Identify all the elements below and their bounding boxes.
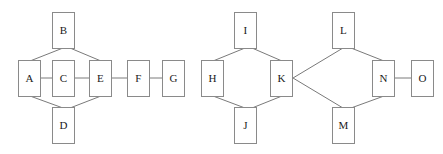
node-e[interactable]: E xyxy=(89,60,112,97)
node-n[interactable]: N xyxy=(372,60,395,97)
node-label-c: C xyxy=(60,73,68,84)
node-m[interactable]: M xyxy=(332,107,355,144)
edge-m-n xyxy=(351,96,384,108)
node-label-d: D xyxy=(59,120,67,131)
node-label-f: F xyxy=(135,73,141,84)
node-label-m: M xyxy=(339,120,349,131)
node-g[interactable]: G xyxy=(162,60,185,97)
node-f[interactable]: F xyxy=(127,60,150,97)
node-h[interactable]: H xyxy=(201,60,224,97)
edge-k-m xyxy=(293,78,343,108)
node-label-l: L xyxy=(340,25,347,36)
node-o[interactable]: O xyxy=(411,60,434,97)
node-i[interactable]: I xyxy=(234,12,257,49)
node-label-j: J xyxy=(243,120,247,131)
edge-k-l xyxy=(293,48,343,78)
node-label-o: O xyxy=(418,73,426,84)
node-l[interactable]: L xyxy=(332,12,355,49)
node-j[interactable]: J xyxy=(234,107,257,144)
node-label-k: K xyxy=(277,73,285,84)
node-d[interactable]: D xyxy=(52,107,75,144)
node-label-n: N xyxy=(379,73,387,84)
node-a[interactable]: A xyxy=(18,60,41,97)
node-b[interactable]: B xyxy=(52,12,75,49)
node-label-i: I xyxy=(244,25,248,36)
node-label-h: H xyxy=(208,73,216,84)
node-c[interactable]: C xyxy=(52,60,75,97)
node-label-b: B xyxy=(60,25,68,36)
diagram-canvas: ABCDEFGHIJKLMNO xyxy=(0,0,443,154)
node-label-e: E xyxy=(97,73,104,84)
node-label-a: A xyxy=(25,73,33,84)
node-label-g: G xyxy=(169,73,177,84)
node-k[interactable]: K xyxy=(270,60,293,97)
